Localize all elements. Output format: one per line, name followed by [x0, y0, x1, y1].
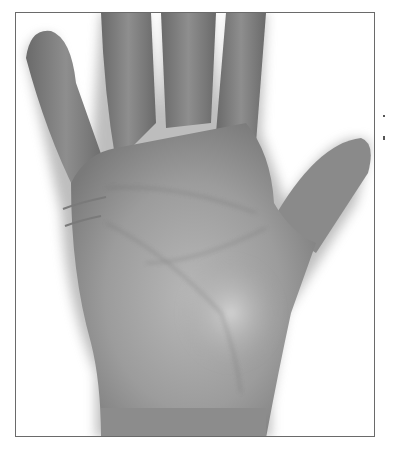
edge-marks [378, 110, 390, 150]
photo-frame [15, 12, 375, 437]
palm-photo [16, 13, 375, 437]
